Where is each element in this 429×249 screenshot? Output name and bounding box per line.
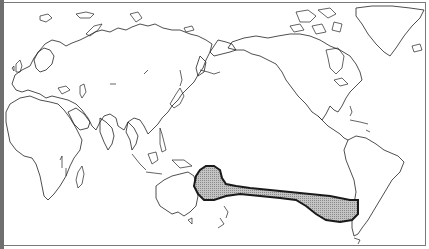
aleutian-islands <box>200 70 220 74</box>
taiwan-philippines <box>160 128 166 152</box>
indonesia-java <box>146 172 162 174</box>
severnaya-zemlya <box>130 12 142 22</box>
svalbard <box>40 14 52 22</box>
novaya-zemlya <box>86 24 102 36</box>
new-siberian-islands <box>184 26 194 32</box>
map-frame <box>0 0 429 249</box>
sakhalin <box>180 70 182 86</box>
greenland-coastline <box>356 6 424 56</box>
tasmania <box>188 218 192 224</box>
iceland <box>412 44 422 52</box>
africa-coastline <box>6 96 82 200</box>
black-sea <box>58 86 70 94</box>
great-lakes <box>334 78 348 86</box>
shaded-region <box>194 166 358 222</box>
canadian-arctic-islands <box>290 8 342 34</box>
arabia-coastline <box>68 108 90 130</box>
tierra-del-fuego <box>354 238 360 244</box>
new-zealand <box>218 206 228 228</box>
caribbean-islands <box>350 120 370 132</box>
british-isles <box>12 60 22 72</box>
florida <box>350 106 352 116</box>
new-guinea <box>172 160 192 168</box>
south-america-coastline <box>344 136 404 236</box>
japan <box>170 88 184 108</box>
scandinavia-coastline <box>34 48 54 72</box>
indonesia-borneo <box>148 152 158 164</box>
indonesia-sumatra <box>132 154 146 170</box>
madagascar <box>76 166 84 188</box>
indochina-coastline <box>126 122 138 150</box>
world-map <box>0 0 429 249</box>
franz-josef-land <box>76 12 94 18</box>
east-africa-lakes <box>60 156 66 176</box>
india-coastline <box>100 118 114 150</box>
caspian-sea <box>80 84 86 98</box>
lake-baikal <box>144 70 148 74</box>
kamchatka-coastline <box>196 56 206 76</box>
hudson-bay <box>326 48 344 74</box>
north-america-coastline <box>228 34 362 120</box>
australia-coastline <box>156 172 198 216</box>
